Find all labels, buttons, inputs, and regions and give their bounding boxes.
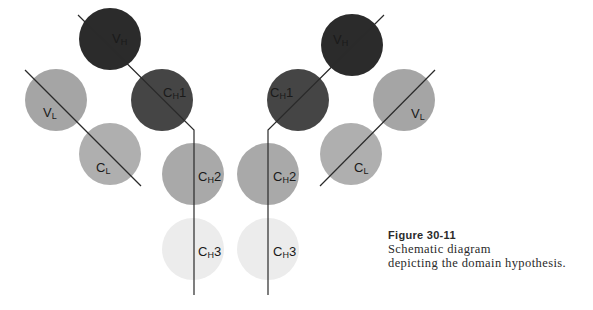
left-vl-domain [25,69,87,131]
left-vh-domain [79,8,141,70]
caption-line-1: Schematic diagram [388,242,588,256]
right-vl-domain [373,69,435,131]
figure-caption: Figure 30-11 Schematic diagram depicting… [388,228,588,270]
caption-line-2: depicting the domain hypothesis. [388,256,588,270]
right-vh-domain [321,14,383,76]
left-ch1-domain [131,69,193,131]
figure-title: Figure 30-11 [388,228,588,242]
